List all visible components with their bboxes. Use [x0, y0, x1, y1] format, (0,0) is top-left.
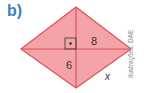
label-x: x	[104, 71, 111, 82]
label-8: 8	[91, 35, 97, 47]
label-6: 6	[66, 59, 72, 71]
rhombus-diagram: 8 6 x	[0, 0, 148, 93]
image-credit: Ilustrações: DAE	[127, 30, 134, 78]
right-angle-dot	[69, 42, 71, 44]
